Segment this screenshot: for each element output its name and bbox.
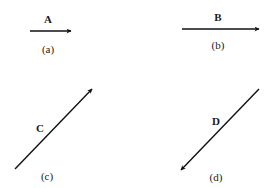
panel-a: A (a): [30, 13, 71, 56]
panel-b-caption: (b): [212, 39, 225, 52]
panel-d: D (d): [181, 89, 259, 184]
vector-c-label: C: [36, 122, 44, 134]
panel-d-caption: (d): [210, 171, 223, 184]
vector-c-arrow: [15, 89, 92, 169]
panel-a-caption: (a): [42, 43, 55, 56]
vector-diagram: A (a) B (b) C (c) D (d): [0, 0, 276, 188]
panel-c-caption: (c): [41, 170, 54, 183]
panel-b: B (b): [182, 11, 259, 52]
vector-d-label: D: [212, 115, 220, 127]
vector-a-label: A: [44, 13, 52, 25]
panel-c: C (c): [15, 89, 92, 183]
vector-b-label: B: [214, 11, 222, 23]
vector-d-arrow: [181, 89, 259, 170]
